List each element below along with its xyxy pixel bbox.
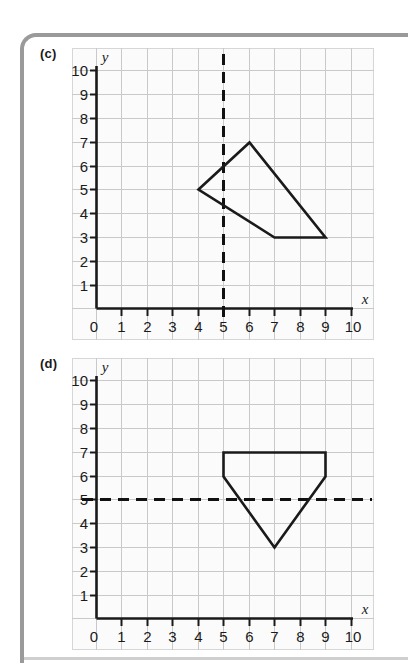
y-tick-label: 10 — [72, 372, 88, 389]
x-tick-label: 3 — [168, 318, 176, 335]
y-tick-label: 7 — [80, 134, 88, 151]
y-tick-label: 2 — [80, 253, 88, 270]
x-tick-label: 8 — [296, 628, 304, 645]
y-tick-label: 5 — [80, 181, 88, 198]
panel-d: (d) — [0, 350, 408, 655]
x-axis-label: x — [361, 291, 369, 307]
x-tick-label: 0 — [90, 628, 98, 645]
coordinate-grid-d: 10 9 8 7 6 5 4 3 2 1 0 1 2 3 4 5 6 7 8 — [72, 358, 374, 650]
x-tick-label: 9 — [321, 628, 329, 645]
y-tick-label: 6 — [80, 158, 88, 175]
x-tick-label: 9 — [321, 318, 329, 335]
x-tick-label: 10 — [345, 628, 362, 645]
x-tick-label: 6 — [245, 318, 253, 335]
y-tick-label: 2 — [80, 563, 88, 580]
x-tick-label: 1 — [117, 628, 125, 645]
x-tick-label: 4 — [194, 318, 202, 335]
x-tick-label: 0 — [90, 318, 98, 335]
x-tick-label: 2 — [143, 628, 151, 645]
x-tick-label: 5 — [219, 628, 227, 645]
bottom-rule — [24, 657, 408, 660]
panel-c: (c) — [0, 40, 408, 345]
x-tick-label: 5 — [219, 318, 227, 335]
x-tick-label: 7 — [270, 628, 278, 645]
y-tick-label: 9 — [80, 86, 88, 103]
y-tick-label: 8 — [80, 420, 88, 437]
x-axis-label: x — [361, 601, 369, 617]
x-tick-label: 8 — [296, 318, 304, 335]
x-tick-label: 10 — [345, 318, 362, 335]
y-tick-label: 4 — [80, 205, 88, 222]
y-tick-label: 1 — [80, 587, 88, 604]
y-tick-label: 3 — [80, 229, 88, 246]
y-tick-label: 9 — [80, 396, 88, 413]
y-tick-label: 4 — [80, 515, 88, 532]
x-tick-label: 4 — [194, 628, 202, 645]
y-axis-label: y — [100, 359, 109, 375]
y-axis-label: y — [100, 49, 109, 65]
panel-label-c: (c) — [40, 46, 57, 61]
x-tick-label: 7 — [270, 318, 278, 335]
x-tick-label: 2 — [143, 318, 151, 335]
y-tick-label: 10 — [72, 62, 88, 79]
x-tick-label: 3 — [168, 628, 176, 645]
y-tick-label: 1 — [80, 277, 88, 294]
y-tick-label: 6 — [80, 468, 88, 485]
y-tick-label: 7 — [80, 444, 88, 461]
panel-label-d: (d) — [40, 356, 57, 371]
y-tick-label: 3 — [80, 539, 88, 556]
x-tick-label: 1 — [117, 318, 125, 335]
coordinate-grid-c: 10 9 8 7 6 5 4 3 2 1 0 1 2 3 4 5 6 7 — [72, 48, 374, 340]
x-tick-label: 6 — [245, 628, 253, 645]
y-tick-label: 8 — [80, 110, 88, 127]
